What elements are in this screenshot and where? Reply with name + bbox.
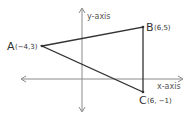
triangle-abc bbox=[42, 27, 143, 92]
coordinate-plane: y-axis x-axis A (−4,3) B (6,5) C (6, −1) bbox=[0, 0, 192, 117]
point-c-coords: (6, −1) bbox=[147, 97, 172, 105]
point-b-marker bbox=[142, 26, 145, 29]
point-c-marker bbox=[142, 91, 145, 94]
point-c-name: C bbox=[139, 94, 147, 107]
y-axis bbox=[79, 8, 85, 112]
point-b-coords: (6,5) bbox=[154, 24, 171, 32]
point-a-name: A bbox=[7, 40, 15, 53]
point-a-marker bbox=[41, 45, 44, 48]
point-a-coords: (−4,3) bbox=[15, 43, 38, 51]
x-axis-label: x-axis bbox=[157, 82, 181, 91]
point-b-name: B bbox=[146, 21, 154, 34]
y-axis-label: y-axis bbox=[87, 12, 111, 21]
